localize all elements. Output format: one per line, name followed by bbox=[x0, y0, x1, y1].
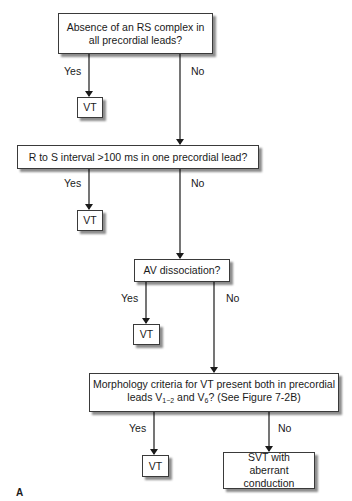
node-vt2: VT bbox=[77, 210, 103, 231]
node-q4-line1: Morphology criteria for VT present both … bbox=[93, 378, 335, 391]
node-q2-rs-interval: R to S interval >100 ms in one precordia… bbox=[17, 145, 259, 169]
edge-label-q2-no: No bbox=[191, 177, 204, 189]
node-vt3-text: VT bbox=[140, 328, 153, 341]
node-vt1-text: VT bbox=[83, 101, 96, 114]
edge-label-q3-yes: Yes bbox=[121, 292, 138, 304]
node-vt3: VT bbox=[133, 324, 160, 345]
node-vt4-text: VT bbox=[149, 460, 162, 473]
node-q3-text: AV dissociation? bbox=[144, 264, 221, 277]
edge-label-q1-no: No bbox=[191, 65, 204, 77]
edge-label-q1-yes: Yes bbox=[64, 65, 81, 77]
node-vt2-text: VT bbox=[83, 214, 96, 227]
node-vt4: VT bbox=[142, 455, 169, 477]
node-q3-av-dissociation: AV dissociation? bbox=[134, 259, 230, 282]
node-q2-text: R to S interval >100 ms in one precordia… bbox=[29, 151, 248, 164]
connector-lines bbox=[0, 0, 352, 501]
panel-label: A bbox=[16, 487, 23, 498]
node-q4-morphology: Morphology criteria for VT present both … bbox=[89, 373, 339, 412]
edge-label-q3-no: No bbox=[226, 292, 239, 304]
node-q4-line2: leads V1−2 and V6? (See Figure 7-2B) bbox=[127, 391, 300, 407]
edge-label-q4-no: No bbox=[278, 422, 291, 434]
node-vt1: VT bbox=[77, 97, 103, 118]
node-q1-rs-complex: Absence of an RS complex in all precordi… bbox=[58, 13, 213, 54]
edge-label-q4-yes: Yes bbox=[129, 422, 146, 434]
edge-label-q2-yes: Yes bbox=[64, 177, 81, 189]
node-svt-aberrant: SVT with aberrant conduction bbox=[223, 452, 315, 489]
node-q1-text: Absence of an RS complex in all precordi… bbox=[65, 21, 206, 47]
node-svt-text: SVT with aberrant conduction bbox=[228, 451, 310, 490]
